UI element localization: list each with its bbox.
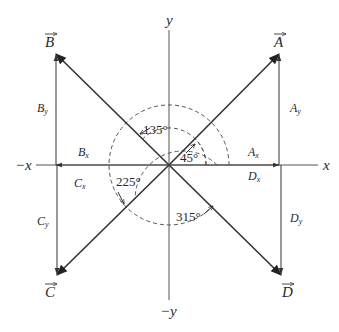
ay-label: Ay <box>289 101 301 116</box>
vector-a-label: A <box>273 34 286 50</box>
neg-y-axis-label: −y <box>160 303 177 319</box>
svg-text:A: A <box>273 34 284 50</box>
cx-label: Cx <box>74 176 86 191</box>
angle-315-label: 315° <box>176 209 201 224</box>
dy-label: Dy <box>289 211 303 226</box>
svg-text:C: C <box>45 284 56 300</box>
neg-x-axis-label: −x <box>15 157 32 173</box>
vector-d-label: D <box>281 284 294 300</box>
svg-text:D: D <box>281 284 293 300</box>
angle-45-label: 45° <box>180 150 198 165</box>
diagram-canvas: y −y x −x A B C D Ay Ax By Bx Cx Cy Dx D… <box>0 0 339 332</box>
y-axis-label: y <box>164 12 173 28</box>
angle-315-pointer <box>204 206 213 214</box>
angle-135-label: 135° <box>143 122 168 137</box>
x-axis-label: x <box>322 157 330 173</box>
vector-c-label: C <box>45 284 57 300</box>
vector-b-arrow <box>56 54 169 165</box>
vector-components-diagram: y −y x −x A B C D Ay Ax By Bx Cx Cy Dx D… <box>0 0 339 332</box>
angle-225-pointer <box>118 192 124 204</box>
angle-225-label: 225° <box>116 174 141 189</box>
vector-b-label: B <box>45 34 57 50</box>
by-label: By <box>37 101 48 116</box>
vector-a-arrow <box>169 54 279 165</box>
svg-text:B: B <box>45 34 54 50</box>
ax-label: Ax <box>247 145 259 160</box>
cy-label: Cy <box>37 214 49 229</box>
bx-label: Bx <box>78 145 89 160</box>
dx-label: Dx <box>247 169 261 184</box>
